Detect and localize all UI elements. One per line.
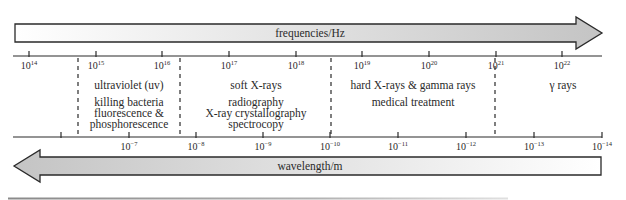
region-soft-x-rays: soft X-raysradiographyX-ray crystallogra…: [205, 79, 306, 131]
region-use: spectrocopy: [228, 118, 284, 131]
region-hard-x-rays-gamma: hard X-rays & gamma raysmedical treatmen…: [350, 79, 476, 108]
region-title: hard X-rays & gamma rays: [350, 79, 476, 92]
region-ultraviolet: ultraviolet (uv)killing bacteriafluoresc…: [90, 79, 169, 131]
wavelength-tick-label: 10−14: [592, 140, 613, 152]
wavelength-axis: 10−710−810−910−1010−1110−1210−1310−14: [13, 132, 613, 152]
frequency-tick-label: 1018: [288, 59, 305, 71]
frequency-tick-label: 1014: [21, 59, 38, 71]
frequency-axis: 101410151016101710181019102010211022: [13, 51, 602, 71]
region-gamma-rays: γ rays: [548, 79, 577, 92]
frequency-tick-label: 1015: [88, 59, 105, 71]
region-use: medical treatment: [372, 96, 456, 108]
wavelength-tick-label: 10−13: [524, 140, 544, 152]
region-title: soft X-rays: [230, 79, 282, 92]
region-use: phosphorescence: [90, 118, 169, 131]
region-title: ultraviolet (uv): [94, 79, 163, 92]
wavelength-tick-label: 10−12: [456, 140, 476, 152]
spectrum-regions: ultraviolet (uv)killing bacteriafluoresc…: [90, 79, 577, 131]
wavelength-tick-label: 10−10: [320, 140, 340, 152]
frequency-tick-label: 1016: [154, 59, 171, 71]
wavelength-axis-label: wavelength/m: [277, 160, 342, 173]
frequency-axis-label: frequencies/Hz: [275, 27, 345, 40]
wavelength-arrow: wavelength/m: [14, 150, 601, 182]
wavelength-tick-label: 10−11: [388, 140, 408, 152]
em-spectrum-diagram: frequencies/Hz 1014101510161017101810191…: [0, 0, 626, 200]
wavelength-tick-label: 10−9: [255, 140, 272, 152]
wavelength-ticks: 10−710−810−910−1010−1110−1210−1310−14: [61, 132, 613, 152]
region-title: γ rays: [548, 79, 577, 92]
bottom-rule: [8, 198, 508, 200]
wavelength-tick-label: 10−7: [121, 140, 139, 152]
frequency-ticks: 101410151016101710181019102010211022: [21, 51, 571, 71]
wavelength-tick-label: 10−8: [188, 140, 205, 152]
frequency-tick-label: 1021: [488, 59, 505, 71]
frequency-tick-label: 1019: [354, 59, 371, 71]
frequency-tick-label: 1020: [421, 59, 438, 71]
frequency-tick-label: 1022: [554, 59, 571, 71]
frequency-arrow: frequencies/Hz: [15, 17, 602, 49]
frequency-tick-label: 1017: [221, 59, 238, 71]
